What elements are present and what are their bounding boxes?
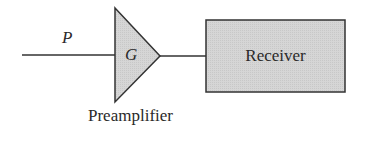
receiver-label: Receiver [206, 20, 345, 92]
preamplifier-triangle [115, 8, 160, 102]
gain-label: G [125, 45, 137, 65]
preamplifier-caption: Preamplifier [88, 106, 173, 126]
input-power-label: P [62, 28, 72, 48]
